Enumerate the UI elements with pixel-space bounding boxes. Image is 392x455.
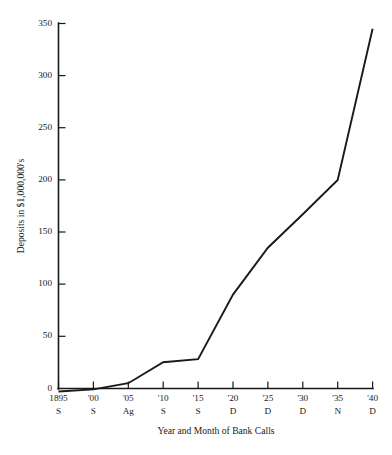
x-tick-year: 1895 — [49, 393, 68, 403]
x-tick-year: '15 — [193, 393, 204, 403]
x-tick-year: '00 — [88, 393, 99, 403]
y-tick-label: 200 — [38, 174, 52, 184]
y-tick-label: 300 — [38, 70, 52, 80]
y-tick-label: 350 — [38, 18, 52, 28]
x-tick-year: '35 — [332, 393, 343, 403]
y-tick-label: 0 — [47, 383, 52, 393]
x-tick-month: S — [196, 406, 201, 416]
x-tick-year: '10 — [158, 393, 169, 403]
x-tick-month: D — [369, 406, 376, 416]
x-tick-year: '25 — [262, 393, 273, 403]
y-tick-label: 250 — [38, 122, 52, 132]
x-tick-month: Ag — [123, 406, 135, 416]
x-tick-month: D — [265, 406, 272, 416]
x-tick-month: S — [56, 406, 61, 416]
line-chart-canvas: Deposits in $1,000,000's 350 300 250 200… — [0, 0, 392, 455]
y-tick-label: 100 — [38, 278, 52, 288]
chart-figure: Deposits in $1,000,000's 350 300 250 200… — [0, 0, 392, 455]
x-tick-year-group: 1895 '00 '05 '10 '15 '20 '25 '30 '35 '40 — [49, 393, 378, 403]
y-tick-mark-group — [59, 24, 66, 337]
y-tick-label: 50 — [43, 330, 53, 340]
x-tick-month: N — [334, 406, 341, 416]
x-tick-month: D — [299, 406, 306, 416]
x-tick-month-group: S S Ag S S D D D N D — [56, 406, 376, 416]
deposits-data-line — [59, 29, 373, 392]
x-tick-year: '30 — [297, 393, 308, 403]
y-tick-label-group: 350 300 250 200 150 100 50 0 — [38, 18, 52, 393]
x-tick-year: '40 — [367, 393, 378, 403]
y-tick-label: 150 — [38, 226, 52, 236]
x-tick-year: '05 — [123, 393, 134, 403]
y-axis-title: Deposits in $1,000,000's — [15, 159, 26, 254]
x-tick-month: S — [91, 406, 96, 416]
x-axis-title: Year and Month of Bank Calls — [157, 425, 274, 436]
x-tick-month: D — [230, 406, 237, 416]
x-tick-year: '20 — [228, 393, 239, 403]
x-tick-month: S — [161, 406, 166, 416]
